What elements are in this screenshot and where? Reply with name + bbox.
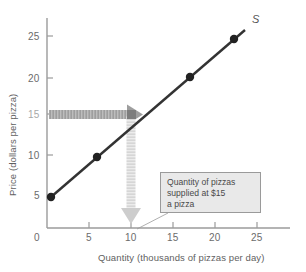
supply-curve-figure: 25 20 15 10 5 0 5 10 15 20 25 Price (dol… [0,0,306,272]
x-tick-label-5: 5 [86,232,92,243]
y-tick-label-5: 5 [34,190,40,201]
supply-curve-label: S [252,13,259,25]
x-tick-label-20: 20 [209,232,221,243]
callout-line-1: Quantity of pizzas [167,177,255,188]
x-tick-label-25: 25 [251,232,263,243]
x-tick-label-15: 15 [167,232,179,243]
y-tick-label-10: 10 [28,150,40,161]
highlight-point-marker [127,110,136,119]
data-point-4 [186,73,194,81]
y-tick-label-15: 15 [28,109,40,120]
x-tick-label-10: 10 [125,232,137,243]
callout-line-2: supplied at $15 [167,188,255,199]
y-tick-label-20: 20 [28,73,40,84]
y-tick-label-25: 25 [28,31,40,42]
y-axis-title: Price (dollars per pizza) [7,0,18,196]
data-point-1 [47,193,55,201]
callout-line-3: a pizza [167,199,255,210]
data-point-2 [93,153,101,161]
data-point-5 [230,35,238,43]
x-tick-label-0: 0 [34,232,40,243]
x-axis-ticks [89,222,257,228]
x-axis-title: Quantity (thousands of pizzas per day) [98,252,264,263]
callout-box: Quantity of pizzas supplied at $15 a piz… [160,172,261,213]
quantity-level-arrow [121,116,141,224]
callout-leader-line [137,213,168,229]
